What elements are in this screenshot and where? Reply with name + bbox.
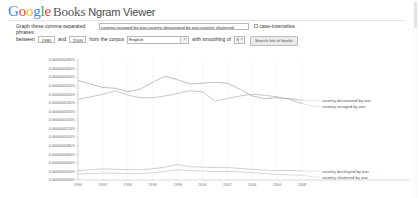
y-axis-tick-label: 0.0000000140% xyxy=(49,118,76,122)
series-line xyxy=(78,165,302,171)
logo-books-word: Books xyxy=(53,4,85,19)
corpus-selected-value: English xyxy=(129,36,143,43)
series-line xyxy=(78,76,302,100)
y-axis-tick-label: 0.0000000180% xyxy=(49,101,76,105)
legend-label[interactable]: country shattered by war xyxy=(322,175,368,180)
search-button[interactable]: Search lots of books xyxy=(250,36,298,46)
scrollbar[interactable] xyxy=(413,0,418,198)
y-axis-tick-label: 0.0000000260% xyxy=(49,67,76,71)
and-label: and xyxy=(58,36,66,42)
y-axis-tick-label: 0.0000000000% xyxy=(49,178,76,182)
ngram-chart: 0.0000000280%0.0000000260%0.0000000240%0… xyxy=(0,52,419,198)
google-books-logo[interactable]: GoogleBooksNgram Viewer xyxy=(8,3,155,19)
x-axis-tick-label: 2006 xyxy=(273,183,281,187)
chevron-down-icon: ▾ xyxy=(238,37,244,43)
y-axis-tick-label: 0.0000000240% xyxy=(49,75,76,79)
y-axis-tick-label: 0.0000000280% xyxy=(49,58,76,62)
y-axis-tick-label: 0.0000000100% xyxy=(49,135,76,139)
y-axis-tick-label: 0.0000000020% xyxy=(49,170,76,174)
y-axis-tick-label: 0.0000000040% xyxy=(49,161,76,165)
legend-label[interactable]: country ravaged by war xyxy=(322,104,366,109)
phrases-input[interactable]: country ravaged by war,country devastate… xyxy=(99,23,249,30)
smoothing-select[interactable]: 3 ▾ xyxy=(234,36,245,44)
ngram-viewer-page: GoogleBooksNgram Viewer Graph these comm… xyxy=(0,0,419,198)
phrases-row: Graph these comma-separated phrases: cou… xyxy=(16,23,408,34)
query-form: Graph these comma-separated phrases: cou… xyxy=(16,23,408,47)
y-axis-tick-label: 0.0000000220% xyxy=(49,84,76,88)
masthead: GoogleBooksNgram Viewer xyxy=(8,2,155,20)
legend-leader-line xyxy=(302,175,320,177)
case-insensitive-option[interactable]: case-insensitive xyxy=(254,23,295,29)
x-axis-tick-label: 2004 xyxy=(248,183,256,187)
x-axis-tick-label: 2008 xyxy=(298,183,306,187)
x-axis-tick-label: 1994 xyxy=(124,183,132,187)
legend-label[interactable]: country devastated by war xyxy=(322,98,371,103)
y-axis-tick-label: 0.0000000160% xyxy=(49,110,76,114)
x-axis-tick-label: 2000 xyxy=(198,183,206,187)
logo-ngram-word: Ngram Viewer xyxy=(88,6,155,18)
y-axis-tick-label: 0.0000000200% xyxy=(49,93,76,97)
phrases-label: Graph these comma-separated phrases: xyxy=(16,23,94,35)
scrollbar-thumb[interactable] xyxy=(414,2,417,28)
series-line xyxy=(78,170,302,176)
start-year-input[interactable]: 1980 xyxy=(38,36,55,43)
y-axis-tick-label: 0.0000000060% xyxy=(49,153,76,157)
series-line xyxy=(78,91,302,104)
between-label: between xyxy=(16,36,35,42)
y-axis-tick-label: 0.0000000080% xyxy=(49,144,76,148)
range-row: between 1980 and 2008 from the corpus En… xyxy=(16,36,408,47)
end-year-input[interactable]: 2008 xyxy=(69,36,86,43)
corpus-select[interactable]: English ▾ xyxy=(127,36,189,44)
x-axis-tick-label: 1990 xyxy=(74,183,82,187)
case-insensitive-checkbox[interactable] xyxy=(254,24,258,28)
legend-leader-line xyxy=(302,104,320,107)
case-insensitive-label: case-insensitive xyxy=(260,23,296,29)
header-divider xyxy=(8,20,403,21)
y-axis-tick-label: 0.0000000120% xyxy=(49,127,76,131)
x-axis-tick-label: 1996 xyxy=(148,183,156,187)
smoothing-label: with smoothing of xyxy=(192,36,231,42)
chevron-down-icon: ▾ xyxy=(180,37,188,43)
corpus-label: from the corpus xyxy=(89,36,124,42)
legend-label[interactable]: country destroyed by war xyxy=(322,169,369,174)
x-axis-tick-label: 1998 xyxy=(173,183,181,187)
x-axis-tick-label: 2002 xyxy=(223,183,231,187)
x-axis-tick-label: 1992 xyxy=(99,183,107,187)
